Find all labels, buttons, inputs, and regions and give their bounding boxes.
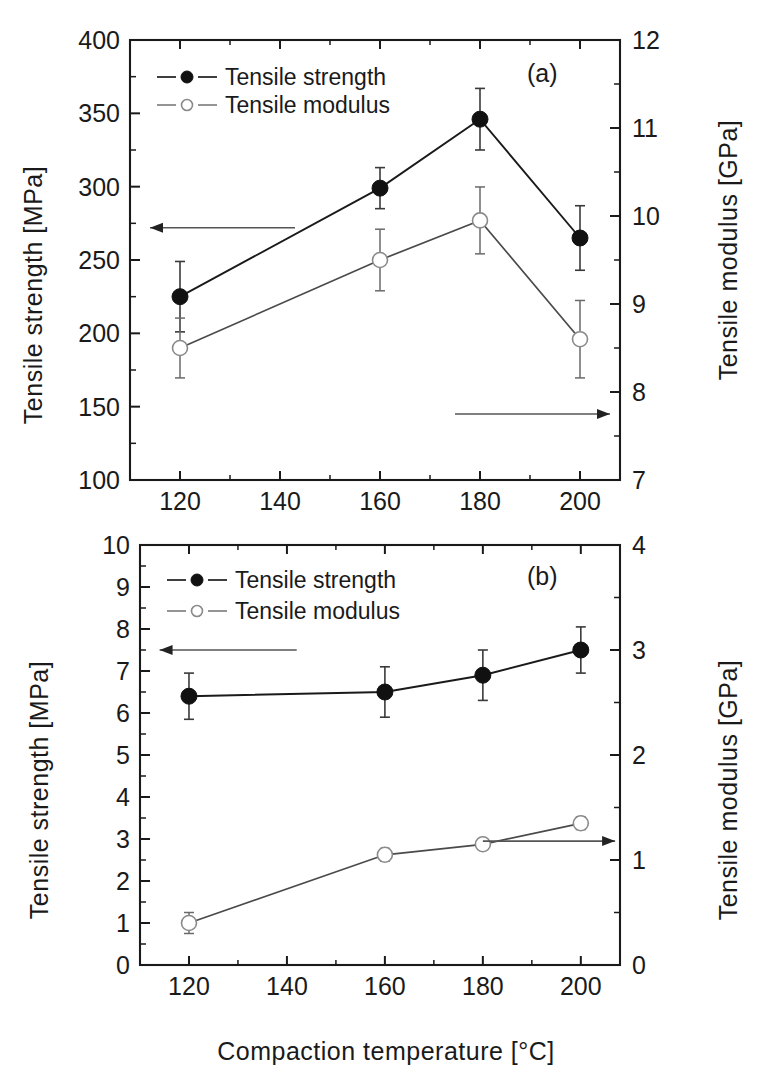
panel-a-legend: Tensile strength Tensile modulus bbox=[157, 64, 390, 118]
data-point-filled bbox=[372, 180, 388, 196]
data-point-filled bbox=[572, 230, 588, 246]
data-point-open bbox=[173, 341, 188, 356]
y-right-tick-label: 4 bbox=[632, 531, 646, 559]
data-point-open bbox=[181, 916, 196, 931]
data-point-open bbox=[573, 332, 588, 347]
y-right-tick-label: 7 bbox=[632, 466, 646, 494]
y-right-tick-label: 11 bbox=[632, 114, 658, 142]
data-point-filled bbox=[472, 111, 488, 127]
panel-b-label: (b) bbox=[527, 562, 558, 590]
legend-marker-open-a bbox=[182, 100, 193, 111]
data-point-open bbox=[475, 837, 490, 852]
panel-b-right-axis-title: Tensile modulus [GPa] bbox=[714, 660, 742, 921]
y-left-tick-label: 150 bbox=[78, 393, 120, 421]
legend-label-modulus-b: Tensile modulus bbox=[235, 598, 400, 624]
series-line-tensile-modulus bbox=[189, 823, 581, 923]
data-point-open bbox=[373, 253, 388, 268]
panel-a-right-axis-title: Tensile modulus [GPa] bbox=[714, 120, 742, 381]
panel-b-left-axis-title: Tensile strength [MPa] bbox=[25, 661, 53, 919]
panel-a-label: (a) bbox=[527, 59, 558, 87]
y-left-tick-label: 9 bbox=[116, 573, 130, 601]
data-point-open bbox=[573, 816, 588, 831]
y-right-tick-label: 10 bbox=[632, 202, 660, 230]
y-right-tick-label: 1 bbox=[632, 846, 646, 874]
data-point-open bbox=[473, 213, 488, 228]
y-left-tick-label: 6 bbox=[116, 699, 130, 727]
y-left-tick-label: 4 bbox=[116, 783, 130, 811]
y-left-tick-label: 400 bbox=[78, 26, 120, 54]
panel-a-left-axis-title: Tensile strength [MPa] bbox=[19, 166, 47, 424]
x-tick-label: 120 bbox=[168, 972, 210, 1000]
legend-label-strength-a: Tensile strength bbox=[225, 64, 386, 90]
arrow-left-head bbox=[150, 223, 163, 233]
data-point-filled bbox=[181, 688, 197, 704]
x-axis-title: Compaction temperature [°C] bbox=[217, 1037, 555, 1065]
arrow-right-head bbox=[602, 836, 615, 846]
y-left-tick-label: 250 bbox=[78, 246, 120, 274]
panel-b-legend: Tensile strength Tensile modulus bbox=[167, 567, 400, 624]
panel-b: 12014016018020001234567891001234 Tensile… bbox=[0, 500, 773, 1077]
arrow-left-head bbox=[160, 645, 173, 655]
panel-a: 1201401601802001001502002503003504007891… bbox=[0, 0, 773, 520]
y-right-tick-label: 3 bbox=[632, 636, 646, 664]
x-tick-label: 140 bbox=[266, 972, 308, 1000]
y-right-tick-label: 12 bbox=[632, 26, 660, 54]
panel-b-series bbox=[181, 627, 589, 934]
figure-root: 1201401601802001001502002503003504007891… bbox=[0, 0, 773, 1077]
y-left-tick-label: 300 bbox=[78, 173, 120, 201]
y-left-tick-label: 2 bbox=[116, 867, 130, 895]
panel-a-svg: 1201401601802001001502002503003504007891… bbox=[0, 0, 773, 520]
y-left-tick-label: 200 bbox=[78, 319, 120, 347]
data-point-filled bbox=[172, 289, 188, 305]
x-tick-label: 180 bbox=[462, 972, 504, 1000]
y-left-tick-label: 100 bbox=[78, 466, 120, 494]
legend-label-strength-b: Tensile strength bbox=[235, 567, 396, 593]
y-right-tick-label: 9 bbox=[632, 290, 646, 318]
panel-b-annotations bbox=[160, 645, 616, 846]
x-tick-label: 200 bbox=[560, 972, 602, 1000]
y-left-tick-label: 5 bbox=[116, 741, 130, 769]
legend-marker-open-b bbox=[192, 606, 203, 617]
legend-label-modulus-a: Tensile modulus bbox=[225, 92, 390, 118]
y-left-tick-label: 7 bbox=[116, 657, 130, 685]
legend-marker-filled-a bbox=[181, 71, 193, 83]
data-point-filled bbox=[475, 667, 491, 683]
y-left-tick-label: 3 bbox=[116, 825, 130, 853]
arrow-right-head bbox=[597, 409, 610, 419]
legend-marker-filled-b bbox=[191, 574, 203, 586]
y-right-tick-label: 0 bbox=[632, 951, 646, 979]
y-right-tick-label: 2 bbox=[632, 741, 646, 769]
y-left-tick-label: 8 bbox=[116, 615, 130, 643]
data-point-filled bbox=[377, 684, 393, 700]
data-point-filled bbox=[573, 642, 589, 658]
data-point-open bbox=[377, 847, 392, 862]
y-left-tick-label: 1 bbox=[116, 909, 130, 937]
panel-a-series bbox=[172, 88, 588, 378]
panel-b-svg: 12014016018020001234567891001234 Tensile… bbox=[0, 500, 773, 1077]
y-left-tick-label: 10 bbox=[102, 531, 130, 559]
y-left-tick-label: 0 bbox=[116, 951, 130, 979]
x-tick-label: 160 bbox=[364, 972, 406, 1000]
y-left-tick-label: 350 bbox=[78, 99, 120, 127]
y-right-tick-label: 8 bbox=[632, 378, 646, 406]
